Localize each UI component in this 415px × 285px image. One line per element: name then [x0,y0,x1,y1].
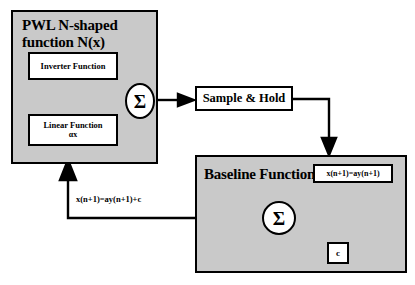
wire-sum-to-sample-hold [155,94,194,106]
pwl-summation-node: Σ [125,83,155,119]
sigma-symbol: Σ [134,92,146,111]
feedback-equation-label: x(n+1)=ay(n+1)+c [76,194,141,204]
constant-c-label: c [336,248,340,258]
sample-and-hold-box: Sample & Hold [195,86,293,111]
baseline-summation-node: Σ [262,201,296,235]
sample-and-hold-label: Sample & Hold [203,91,286,106]
pwl-block-title: PWL N-shaped function N(x) [22,17,118,51]
linear-function-box: Linear Function αx [28,114,118,146]
constant-c-box: c [327,242,349,264]
inverter-function-box: Inverter Function [28,52,118,80]
baseline-block-title: Baseline Function [204,166,315,183]
inverter-function-label: Inverter Function [41,61,106,71]
diagram-canvas: PWL N-shaped function N(x) Inverter Func… [0,0,415,285]
linear-function-label: Linear Function [43,120,102,131]
wire-sample-hold-to-baseline [293,99,336,155]
linear-function-sublabel: αx [69,130,77,140]
baseline-equation-box: x(n+1)=ay(n+1) [313,164,393,183]
baseline-equation-label: x(n+1)=ay(n+1) [326,169,379,178]
sigma-symbol: Σ [273,209,285,228]
